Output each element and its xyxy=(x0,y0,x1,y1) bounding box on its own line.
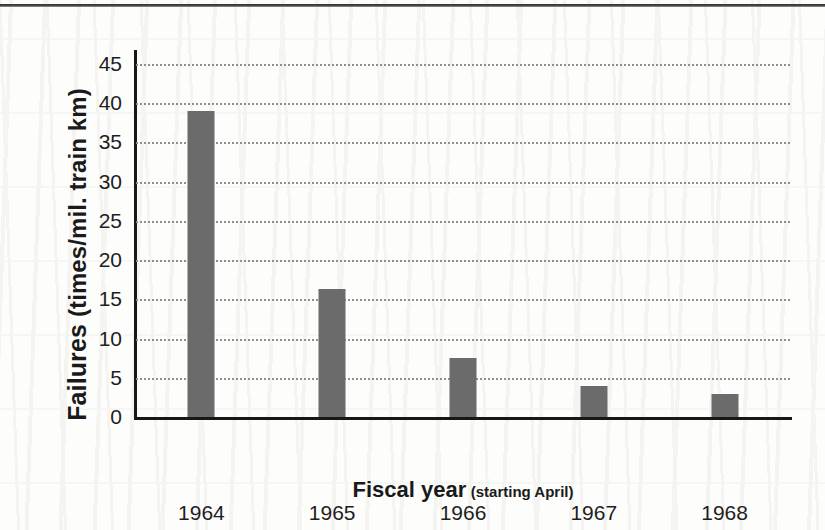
gridline xyxy=(136,103,790,105)
y-axis-title: Failures (times/mil. train km) xyxy=(63,60,92,450)
y-axis-tick-label: 20 xyxy=(99,248,122,272)
x-axis-tick-label: 1965 xyxy=(309,501,356,525)
y-axis-tick-label: 5 xyxy=(110,366,122,390)
gridline xyxy=(136,142,790,144)
y-axis-line xyxy=(134,50,137,419)
y-axis-tick-label: 0 xyxy=(110,405,122,429)
x-axis-tick-label: 1967 xyxy=(570,501,617,525)
y-axis-tick-label: 40 xyxy=(99,91,122,115)
y-axis-tick-label: 25 xyxy=(99,209,122,233)
y-axis-title-unit: (times/mil. train km) xyxy=(64,88,91,317)
bar-1965 xyxy=(319,289,346,417)
y-axis-tick-label: 15 xyxy=(99,287,122,311)
x-axis-tick-label: 1968 xyxy=(701,501,748,525)
x-axis-tick-label: 1964 xyxy=(178,501,225,525)
bar-1967 xyxy=(580,386,607,417)
x-axis-line xyxy=(134,417,792,420)
x-axis-title: Fiscal year (starting April) xyxy=(136,477,790,503)
x-axis-title-main: Fiscal year xyxy=(353,477,467,502)
gridline xyxy=(136,64,790,66)
gridline xyxy=(136,339,790,341)
x-axis-tick-label: 1966 xyxy=(440,501,487,525)
bar-1968 xyxy=(711,394,738,417)
gridline xyxy=(136,299,790,301)
bar-chart: Failures (times/mil. train km) 051015202… xyxy=(0,0,825,530)
bar-1964 xyxy=(188,111,215,417)
gridline xyxy=(136,221,790,223)
plot-area: 051015202530354045 19641965196619671968 xyxy=(136,64,790,417)
gridline xyxy=(136,182,790,184)
y-axis-tick-label: 10 xyxy=(99,327,122,351)
bar-1966 xyxy=(450,358,477,417)
y-axis-tick-label: 35 xyxy=(99,130,122,154)
y-axis-title-main: Failures xyxy=(63,324,91,421)
gridline xyxy=(136,260,790,262)
x-axis-title-sub: (starting April) xyxy=(471,483,574,500)
y-axis-tick-label: 45 xyxy=(99,52,122,76)
y-axis-tick-label: 30 xyxy=(99,170,122,194)
